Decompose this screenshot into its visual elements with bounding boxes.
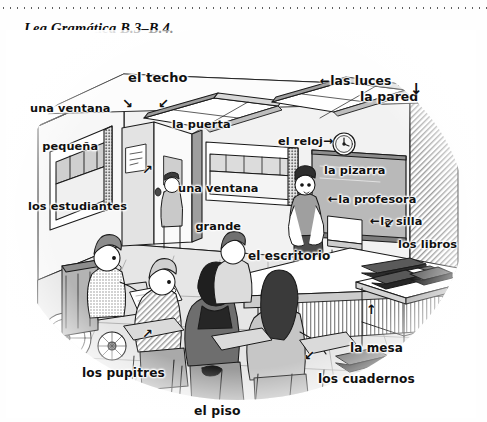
arrow-down-pared-icon: ↓ (410, 80, 423, 98)
textbook-page: Lea Gramática B.3–B.4. (0, 0, 487, 422)
label-el-piso: el piso (194, 380, 241, 422)
classroom-illustration: el techo ←las luces la pared ↓ una venta… (6, 30, 476, 418)
top-dotted-rule (0, 6, 487, 10)
arrow-cuadernos-icon: ↙ (304, 348, 315, 363)
arrow-left-icon: ← (320, 74, 330, 88)
arrow-pupitres-icon: ↗ (142, 326, 153, 341)
arrow-estudiantes-icon: ↗ (142, 162, 153, 177)
arrow-ventana-pequena-icon: ↘ (122, 96, 133, 111)
arrow-puerta-icon: ↙ (158, 96, 169, 111)
label-los-estudiantes: los estudiantes (28, 178, 127, 236)
arrow-left-profesora-icon: ← (328, 192, 338, 206)
label-los-libros: los libros (398, 216, 457, 274)
arrow-mesa-icon: ↑ (366, 302, 377, 317)
label-una-ventana-grande: una ventana grande (178, 158, 259, 259)
label-una-ventana-pequena: una ventana pequeña (30, 78, 111, 179)
arrow-libros-icon: ↙ (384, 216, 395, 231)
label-el-escritorio: el escritorio (248, 226, 330, 287)
arrow-left-silla-icon: ← (370, 214, 380, 228)
label-los-cuadernos: los cuadernos (318, 348, 415, 410)
label-los-pupitres: los pupitres (82, 342, 165, 404)
label-la-puerta: la puerta (172, 96, 231, 154)
